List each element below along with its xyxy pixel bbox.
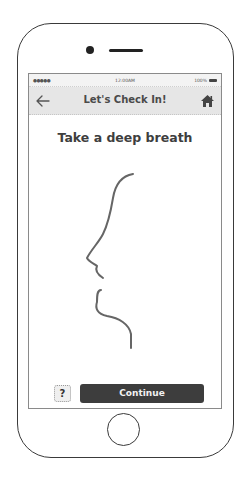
continue-button[interactable]: Continue <box>80 384 204 403</box>
home-nav-button[interactable] <box>200 93 215 107</box>
help-button[interactable]: ? <box>54 385 71 402</box>
earpiece-speaker <box>109 49 143 52</box>
status-bar: ●●●●● 12:00AM 100% <box>29 74 221 87</box>
nav-bar: Let's Check In! <box>29 87 221 115</box>
phone-screen: ●●●●● 12:00AM 100% Let's Check In! Take … <box>28 73 222 409</box>
face-profile-illustration <box>73 164 163 354</box>
status-time: 12:00AM <box>29 78 221 83</box>
battery-icon <box>209 79 217 82</box>
battery-percent: 100% <box>194 78 207 83</box>
front-camera <box>86 46 94 54</box>
page-title: Let's Check In! <box>29 94 221 105</box>
instruction-heading: Take a deep breath <box>29 130 221 145</box>
home-icon <box>200 94 215 108</box>
bottom-action-bar: ? Continue <box>29 382 221 404</box>
battery-indicator: 100% <box>194 78 217 83</box>
device-home-button[interactable] <box>107 413 140 446</box>
